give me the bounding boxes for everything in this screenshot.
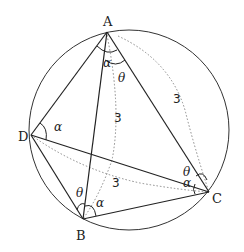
angle-arc-c-alpha <box>194 184 196 194</box>
segment-db <box>31 135 83 219</box>
angle-arc-d-alpha <box>40 123 46 140</box>
angle-arc-c-theta <box>196 174 207 180</box>
dotted-arc-ac <box>118 36 209 192</box>
vertex-label-d: D <box>18 129 28 144</box>
vertex-label-b: B <box>76 228 86 243</box>
segment-ac <box>107 32 209 192</box>
vertex-label-a: A <box>102 14 113 29</box>
length-label-dc: 3 <box>112 176 120 190</box>
angle-arc-a-alpha <box>97 46 117 52</box>
angle-label-d-alpha: α <box>54 120 62 134</box>
angle-label-b-alpha: α <box>96 196 104 210</box>
length-label-ab: 3 <box>114 111 122 125</box>
angle-label-a-theta: θ <box>118 71 126 85</box>
angle-label-b-theta: θ <box>76 186 84 200</box>
geometry-diagram: A B C D 3 3 3 α θ α θ α θ α <box>0 0 244 252</box>
angle-label-a-alpha: α <box>103 56 111 70</box>
angle-label-c-alpha: α <box>183 176 191 190</box>
vertex-label-c: C <box>212 191 222 206</box>
length-label-ac: 3 <box>173 92 181 106</box>
